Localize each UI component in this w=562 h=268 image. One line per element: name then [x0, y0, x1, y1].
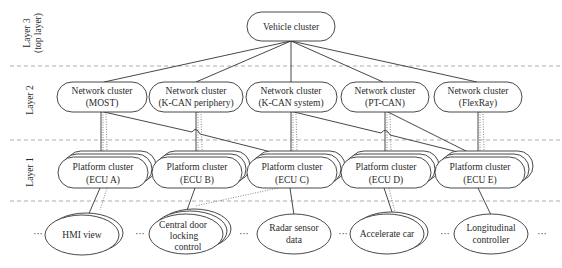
- network-cluster-k-can-periphery[interactable]: Network cluster (K-CAN periphery): [149, 82, 243, 112]
- function-radar-sensor-data[interactable]: Radar sensor data: [257, 214, 331, 254]
- platform-cluster-ecu-b[interactable]: Platform cluster (ECU B): [152, 151, 250, 188]
- svg-text:Layer 3: Layer 3: [22, 18, 32, 48]
- layer3-label: Layer 3 (top layer): [22, 13, 44, 53]
- platform-cluster-ecu-a[interactable]: Platform cluster (ECU A): [58, 151, 156, 188]
- platform-cluster-ecu-c[interactable]: Platform cluster (ECU C): [247, 151, 345, 188]
- svg-text:data: data: [286, 235, 303, 245]
- svg-text:(PT-CAN): (PT-CAN): [365, 98, 405, 109]
- svg-text:···: ···: [135, 229, 145, 239]
- network-cluster-k-can-system[interactable]: Network cluster (K-CAN system): [246, 82, 337, 112]
- network-cluster-most[interactable]: Network cluster (MOST): [57, 82, 147, 112]
- function-central-door-locking[interactable]: Central door locking control: [149, 209, 231, 254]
- svg-text:(ECU C): (ECU C): [275, 175, 309, 186]
- svg-text:(K-CAN system): (K-CAN system): [258, 98, 323, 109]
- svg-text:Radar sensor: Radar sensor: [269, 223, 319, 233]
- svg-text:Network cluster: Network cluster: [261, 86, 323, 96]
- svg-text:(ECU D): (ECU D): [369, 175, 404, 186]
- vehicle-cluster-node[interactable]: Vehicle cluster: [247, 12, 335, 41]
- svg-text:···: ···: [338, 229, 348, 239]
- function-longitudinal-controller[interactable]: Longitudinal controller: [454, 214, 528, 254]
- svg-text:Platform cluster: Platform cluster: [167, 162, 229, 172]
- svg-text:locking: locking: [170, 231, 199, 241]
- svg-text:Longitudinal: Longitudinal: [466, 223, 515, 233]
- svg-text:Platform cluster: Platform cluster: [73, 162, 135, 172]
- edges-layer2-to-layer1: [101, 112, 478, 157]
- svg-text:(ECU A): (ECU A): [86, 175, 120, 186]
- svg-text:control: control: [175, 242, 202, 252]
- svg-text:controller: controller: [473, 235, 511, 245]
- function-hmi-view[interactable]: HMI view: [45, 213, 123, 255]
- network-cluster-flexray[interactable]: Network cluster (FlexRay): [434, 82, 522, 112]
- svg-text:Platform cluster: Platform cluster: [450, 162, 512, 172]
- svg-text:Platform cluster: Platform cluster: [356, 162, 418, 172]
- svg-text:Platform cluster: Platform cluster: [262, 162, 324, 172]
- svg-text:Accelerate car: Accelerate car: [360, 229, 415, 239]
- network-cluster-pt-can[interactable]: Network cluster (PT-CAN): [341, 82, 429, 112]
- vehicle-architecture-diagram: Layer 3 (top layer) Layer 2 Layer 1: [0, 0, 562, 268]
- svg-text:Layer 2: Layer 2: [25, 85, 35, 115]
- svg-text:···: ···: [537, 229, 547, 239]
- edges-layer3-to-layer2: [104, 41, 477, 82]
- svg-text:Central door: Central door: [159, 220, 208, 230]
- svg-text:···: ···: [33, 229, 43, 239]
- svg-text:(FlexRay): (FlexRay): [459, 98, 498, 109]
- svg-text:Network cluster: Network cluster: [166, 86, 228, 96]
- platform-cluster-ecu-e[interactable]: Platform cluster (ECU E): [435, 151, 533, 188]
- svg-text:Network cluster: Network cluster: [72, 86, 134, 96]
- svg-text:Network cluster: Network cluster: [355, 86, 417, 96]
- svg-text:HMI view: HMI view: [62, 230, 101, 240]
- platform-cluster-ecu-d[interactable]: Platform cluster (ECU D): [341, 151, 439, 188]
- function-accelerate-car[interactable]: Accelerate car: [350, 212, 428, 254]
- edges-layer1-to-functions: [87, 188, 491, 218]
- svg-text:(top layer): (top layer): [33, 13, 44, 53]
- svg-text:(MOST): (MOST): [86, 98, 119, 109]
- svg-text:(ECU B): (ECU B): [180, 175, 214, 186]
- svg-text:Network cluster: Network cluster: [448, 86, 510, 96]
- svg-text:Vehicle cluster: Vehicle cluster: [263, 22, 320, 32]
- svg-text:(ECU E): (ECU E): [463, 175, 497, 186]
- svg-text:···: ···: [239, 229, 249, 239]
- svg-text:Layer 1: Layer 1: [25, 157, 35, 187]
- layer2-label: Layer 2: [25, 85, 35, 115]
- layer1-label: Layer 1: [25, 157, 35, 187]
- svg-text:(K-CAN periphery): (K-CAN periphery): [158, 98, 233, 109]
- svg-text:···: ···: [440, 229, 450, 239]
